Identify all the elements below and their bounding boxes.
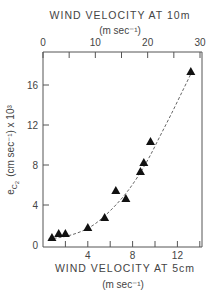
top-axis-ticks: 0102030 xyxy=(40,37,206,58)
triangle-marker xyxy=(83,223,92,231)
triangle-marker xyxy=(136,167,145,175)
triangle-marker xyxy=(146,137,155,145)
bottom-tick-label: 4 xyxy=(85,250,91,261)
y-axis-title: eC2(cm sec⁻¹) x 10³ xyxy=(5,105,20,195)
triangle-marker xyxy=(100,213,109,221)
left-tick-label: 8 xyxy=(32,160,38,171)
data-points xyxy=(47,67,195,241)
bottom-axis-ticks: 4812 xyxy=(65,241,199,261)
left-tick-label: 12 xyxy=(27,120,39,131)
left-tick-label: 0 xyxy=(32,240,38,251)
top-axis-units: (m sec⁻¹) xyxy=(99,25,141,36)
bottom-axis-units: (m sec⁻¹) xyxy=(102,279,144,290)
bottom-axis-title: WIND VELOCITY AT 5cm xyxy=(55,262,195,274)
plot-frame xyxy=(43,52,202,247)
top-axis-title: WIND VELOCITY AT 10m xyxy=(50,9,191,21)
chart: WIND VELOCITY AT 10m (m sec⁻¹) 0102030 4… xyxy=(0,0,216,297)
top-tick-label: 20 xyxy=(142,37,154,48)
left-axis-ticks: 0481216 xyxy=(27,80,49,251)
y-axis-title-subsub: 2 xyxy=(14,180,20,184)
bottom-tick-label: 8 xyxy=(130,250,136,261)
left-tick-label: 16 xyxy=(27,80,39,91)
bottom-tick-label: 12 xyxy=(172,250,184,261)
top-tick-label: 0 xyxy=(40,37,46,48)
top-tick-label: 30 xyxy=(194,37,206,48)
triangle-marker xyxy=(186,67,195,75)
top-tick-label: 10 xyxy=(90,37,102,48)
fit-curve xyxy=(49,74,191,239)
left-tick-label: 4 xyxy=(32,200,38,211)
triangle-marker xyxy=(121,194,130,202)
triangle-marker xyxy=(111,186,120,194)
triangle-marker xyxy=(61,229,70,237)
y-axis-title-rest: (cm sec⁻¹) x 10³ xyxy=(5,105,16,177)
